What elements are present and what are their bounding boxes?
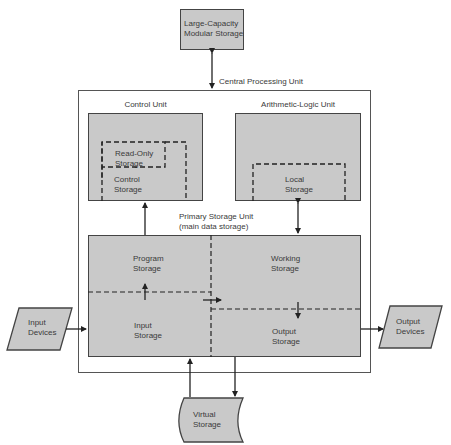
output-devices-label: Output Devices (396, 317, 424, 337)
read-only-dashed-outline (102, 142, 165, 178)
label-line: Devices (28, 328, 56, 338)
control-storage-dashed-outline (102, 142, 186, 201)
virtual-storage-label: Virtual Storage (193, 410, 221, 430)
label-line: Storage (193, 420, 221, 430)
input-devices-label: Input Devices (28, 318, 56, 338)
label-line: Output (396, 317, 424, 327)
label-line: Devices (396, 327, 424, 337)
label-line: Virtual (193, 410, 221, 420)
diagram-lines (0, 0, 451, 445)
label-line: Input (28, 318, 56, 328)
local-storage-dashed-outline (253, 164, 345, 201)
